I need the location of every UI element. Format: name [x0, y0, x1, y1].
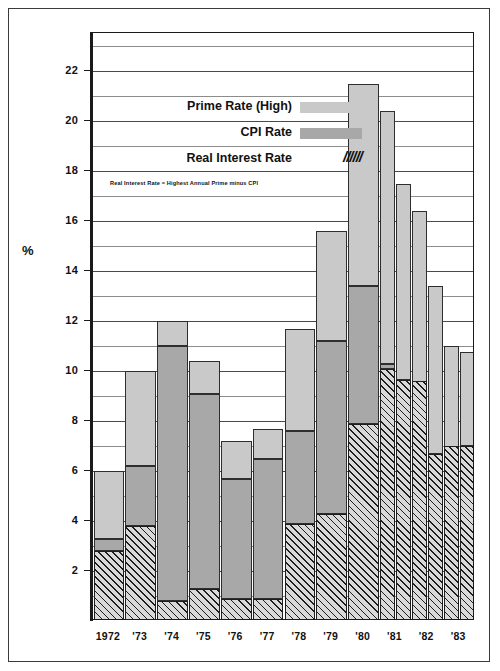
bar-real-1979	[316, 514, 347, 620]
x-axis-label-78: '78	[292, 630, 307, 642]
bar-cpi-1972	[94, 539, 125, 552]
y-axis-label-4: 4	[48, 514, 78, 526]
bar-prime-1973	[125, 371, 156, 466]
legend-item-prime: Prime Rate (High)	[110, 96, 370, 122]
y-axis-label-12: 12	[48, 314, 78, 326]
bar-cpi-1978	[285, 431, 316, 524]
x-axis-label-73: '73	[132, 630, 147, 642]
bar-prime-1974	[157, 321, 188, 346]
bar-prime-1977	[253, 429, 284, 459]
bar-cpi-1976	[221, 479, 252, 599]
bar-prime-1972	[94, 471, 125, 539]
bar-prime-1981-secondary	[396, 184, 411, 380]
legend-swatch-cpi	[300, 128, 362, 139]
x-axis-label-80: '80	[355, 630, 370, 642]
bar-cpi-1973	[125, 466, 156, 526]
bar-cpi-1979	[316, 341, 347, 514]
bar-prime-1976	[221, 441, 252, 479]
y-tick-18	[84, 170, 92, 171]
y-tick-20	[84, 120, 92, 121]
bar-real-1983	[444, 446, 459, 619]
y-axis-label-2: 2	[48, 564, 78, 576]
y-axis-label-6: 6	[48, 464, 78, 476]
chart-legend: Prime Rate (High) CPI Rate Real Interest…	[110, 96, 370, 174]
bar-cpi-1977	[253, 459, 284, 599]
legend-label-cpi: CPI Rate	[241, 125, 292, 139]
y-tick-12	[84, 320, 92, 321]
x-axis-label-76: '76	[228, 630, 243, 642]
bar-real-1974	[157, 601, 188, 619]
bar-real-1980	[348, 424, 379, 620]
x-axis-label-81: '81	[387, 630, 402, 642]
x-axis-label-75: '75	[196, 630, 211, 642]
bar-prime-1981	[380, 111, 395, 364]
bar-prime-1978	[285, 329, 316, 432]
bar-prime-1983-secondary	[460, 352, 473, 446]
bar-real-1976	[221, 599, 252, 620]
legend-footnote: Real Interest Rate = Highest Annual Prim…	[110, 180, 258, 186]
legend-item-cpi: CPI Rate	[110, 122, 370, 148]
y-axis-label-16: 16	[48, 214, 78, 226]
gridline-minor-17	[93, 196, 473, 197]
bar-real-1977	[253, 599, 284, 620]
bar-prime-1982-secondary	[428, 286, 443, 454]
y-tick-16	[84, 220, 92, 221]
y-tick-10	[84, 370, 92, 371]
y-tick-6	[84, 470, 92, 471]
y-tick-22	[84, 70, 92, 71]
bar-prime-1975	[189, 361, 220, 394]
y-axis-label-14: 14	[48, 264, 78, 276]
bar-cpi-1975	[189, 394, 220, 589]
legend-item-real: Real Interest Rate //////	[110, 148, 370, 174]
gridline-major-22	[93, 71, 473, 72]
legend-label-prime: Prime Rate (High)	[187, 99, 292, 113]
y-tick-2	[84, 570, 92, 571]
bar-real-1981	[380, 369, 395, 620]
y-axis-label-20: 20	[48, 114, 78, 126]
x-axis-label-83: '83	[451, 630, 466, 642]
bar-prime-1979	[316, 231, 347, 341]
bar-real-1978	[285, 524, 316, 620]
bar-real-1982-secondary	[428, 454, 443, 620]
bar-cpi-1980	[348, 286, 379, 424]
y-axis-label-8: 8	[48, 414, 78, 426]
bar-cpi-1974	[157, 346, 188, 601]
x-axis-label-1972: 1972	[96, 630, 120, 642]
y-tick-8	[84, 420, 92, 421]
legend-swatch-prime	[300, 102, 362, 113]
bar-real-1973	[125, 526, 156, 619]
y-axis-title: %	[22, 243, 34, 258]
chart-page: 246810121416182022 % 1972'73'74'75'76'77…	[0, 0, 500, 671]
legend-swatch-real: //////	[343, 148, 362, 165]
x-axis-label-74: '74	[164, 630, 179, 642]
y-tick-4	[84, 520, 92, 521]
bar-real-1975	[189, 589, 220, 620]
bar-real-1981-secondary	[396, 380, 411, 619]
bar-real-1983-secondary	[460, 446, 473, 619]
legend-label-real: Real Interest Rate	[186, 151, 292, 165]
bar-real-1982	[412, 381, 427, 619]
gridline-minor-23	[93, 46, 473, 47]
x-axis-label-82: '82	[419, 630, 434, 642]
x-axis-label-79: '79	[323, 630, 338, 642]
y-axis-label-10: 10	[48, 364, 78, 376]
bar-real-1972	[94, 551, 125, 619]
y-axis-label-18: 18	[48, 164, 78, 176]
y-axis-label-22: 22	[48, 64, 78, 76]
y-tick-14	[84, 270, 92, 271]
x-axis-label-77: '77	[260, 630, 275, 642]
